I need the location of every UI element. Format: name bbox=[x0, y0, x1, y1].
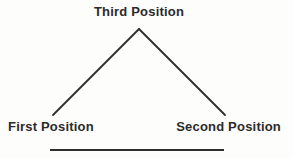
triangle-left-edge-line bbox=[53, 29, 139, 115]
third-position-label: Third Position bbox=[0, 4, 278, 19]
position-triangle-diagram: Third Position First Position Second Pos… bbox=[0, 0, 293, 158]
first-position-label: First Position bbox=[8, 119, 94, 134]
triangle-right-edge-line bbox=[139, 29, 225, 115]
diagram-lines bbox=[0, 0, 293, 158]
second-position-label: Second Position bbox=[176, 119, 281, 134]
